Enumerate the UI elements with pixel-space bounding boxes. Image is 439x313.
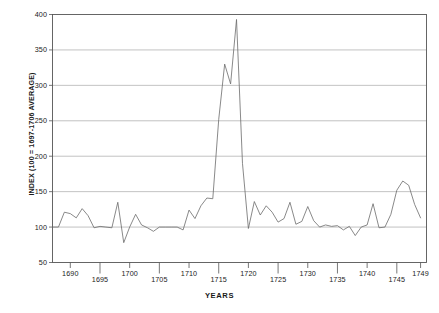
chart-container: INDEX (100 = 1697-1706 AVERAGE) YEARS 40… (0, 0, 439, 313)
gridlines (53, 50, 427, 227)
x-axis-ticks (70, 263, 420, 274)
plot-area (0, 0, 439, 313)
data-series-line (53, 19, 421, 242)
y-axis-ticks (49, 15, 53, 263)
plot-frame (53, 15, 427, 263)
